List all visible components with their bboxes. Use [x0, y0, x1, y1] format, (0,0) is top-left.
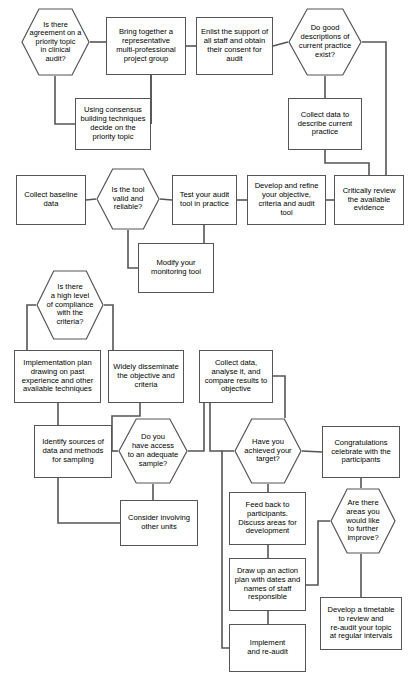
node-implement-reaudit: Implement and re-audit: [229, 624, 306, 672]
flowchart-canvas: Is there agreement on a priority topic i…: [0, 0, 417, 685]
node-label-congratulations: Congratulations celebrate with the parti…: [325, 439, 397, 465]
connector-good-right-down: [362, 42, 386, 175]
node-label-feed-back: Feed back to participants. Discuss areas…: [232, 501, 303, 536]
node-label-widely-disseminate: Widely disseminate the objective and cri…: [111, 363, 181, 389]
node-label-good-descriptions: Do good descriptions of current practice…: [290, 24, 360, 59]
node-label-collect-analyse: Collect data, analyse it, and compare re…: [202, 359, 270, 394]
node-label-tool-valid: Is the tool valid and reliable?: [98, 186, 158, 212]
connector-achieved-left-long-down: [222, 451, 234, 648]
node-collect-describe: Collect data to describe current practic…: [288, 98, 362, 150]
node-using-consensus: Using consensus building techniques deci…: [75, 98, 151, 150]
node-label-agreement: Is there agreement on a priority topic i…: [23, 21, 88, 64]
node-label-compliance: Is there a high level of compliance with…: [38, 283, 102, 327]
node-label-enlist-support: Enlist the support of all staff and obta…: [199, 28, 270, 63]
node-compliance: Is there a high level of compliance with…: [36, 270, 104, 340]
connector-toolvalid-to-test: [160, 199, 172, 200]
node-widely-disseminate: Widely disseminate the objective and cri…: [108, 350, 184, 403]
connector-baseline-to-toolvalid: [86, 199, 96, 200]
node-label-develop-timetable: Develop a timetable to review and re-aud…: [323, 606, 399, 641]
connector-compliance-right-down: [104, 305, 113, 350]
node-label-action-plan: Draw up an action plan with dates and na…: [232, 567, 303, 602]
node-label-bring-together: Bring together a representative multi-pr…: [109, 28, 183, 63]
node-consider-units: Consider involving other units: [120, 500, 198, 546]
node-agreement: Is there agreement on a priority topic i…: [21, 8, 90, 76]
node-label-using-consensus: Using consensus building techniques deci…: [78, 106, 148, 141]
node-label-identify-sources: Identify sources of data and methods for…: [37, 438, 109, 464]
node-label-collect-describe: Collect data to describe current practic…: [291, 111, 359, 137]
node-label-further-improve: Are there areas you would like to furthe…: [332, 499, 394, 543]
connector-adequate-right-up: [188, 403, 204, 451]
node-critically-review: Critically review the available evidence: [334, 175, 404, 225]
connector-collect-analyse-right-down: [273, 376, 285, 418]
connector-collect-down-to-critically: [325, 150, 369, 175]
node-bring-together: Bring together a representative multi-pr…: [106, 17, 186, 75]
node-modify-tool: Modify your monitoring tool: [138, 243, 214, 293]
node-achieved-target: Have you achieved your target?: [234, 418, 302, 484]
connector-enlist-to-good: [273, 42, 288, 46]
node-identify-sources: Identify sources of data and methods for…: [34, 425, 112, 478]
connector-achieved-to-congratulations: [302, 451, 322, 452]
node-feed-back: Feed back to participants. Discuss areas…: [229, 492, 306, 545]
node-label-consider-units: Consider involving other units: [123, 514, 195, 532]
connector-compliance-left-down: [27, 305, 36, 350]
node-label-test-tool: Test your audit tool in practice: [175, 191, 234, 209]
node-develop-timetable: Develop a timetable to review and re-aud…: [320, 597, 402, 650]
node-label-develop-refine: Develop and refine your objective, crite…: [250, 182, 323, 217]
connector-action-to-improve: [306, 521, 330, 585]
connector-collect-analyse-left-down: [210, 403, 222, 451]
node-label-achieved-target: Have you achieved your target?: [236, 438, 300, 464]
connector-agreement-down-to-consensus: [55, 76, 75, 124]
node-label-implement-reaudit: Implement and re-audit: [232, 639, 303, 657]
node-adequate-sample: Do you have access to an adequate sample…: [118, 418, 188, 484]
node-label-adequate-sample: Do you have access to an adequate sample…: [120, 433, 186, 468]
node-label-collect-baseline: Collect baseline data: [19, 191, 83, 209]
node-good-descriptions: Do good descriptions of current practice…: [288, 8, 362, 76]
node-label-implementation-plan: Implementation plan drawing on past expe…: [17, 359, 98, 394]
node-enlist-support: Enlist the support of all staff and obta…: [196, 17, 273, 75]
node-collect-analyse: Collect data, analyse it, and compare re…: [199, 350, 273, 403]
connector-identify-down-loop: [58, 478, 120, 523]
node-collect-baseline: Collect baseline data: [16, 175, 86, 225]
node-congratulations: Congratulations celebrate with the parti…: [322, 426, 400, 478]
node-label-critically-review: Critically review the available evidence: [337, 187, 401, 213]
node-develop-refine: Develop and refine your objective, crite…: [247, 175, 326, 225]
connector-toolvalid-down-to-modify: [128, 230, 138, 268]
node-tool-valid: Is the tool valid and reliable?: [96, 168, 160, 230]
node-label-modify-tool: Modify your monitoring tool: [141, 259, 211, 277]
node-further-improve: Are there areas you would like to furthe…: [330, 488, 396, 554]
node-test-tool: Test your audit tool in practice: [172, 175, 237, 225]
node-action-plan: Draw up an action plan with dates and na…: [229, 558, 306, 611]
node-implementation-plan: Implementation plan drawing on past expe…: [14, 350, 101, 403]
